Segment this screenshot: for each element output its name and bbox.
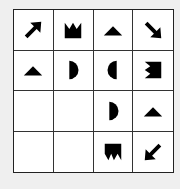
half-circle-left-icon xyxy=(102,59,124,81)
triangle-up-icon xyxy=(102,19,124,41)
cell-r1c2[interactable] xyxy=(54,10,94,51)
cell-r4c3[interactable] xyxy=(94,132,134,173)
cell-r3c3[interactable] xyxy=(94,91,134,132)
puzzle-grid xyxy=(13,9,174,173)
triangle-up-icon xyxy=(22,59,44,81)
cell-r3c4[interactable] xyxy=(133,91,173,132)
arrow-up-right-icon xyxy=(22,19,44,41)
half-circle-right-icon xyxy=(62,59,84,81)
crown-icon xyxy=(62,19,84,41)
cell-r3c1[interactable] xyxy=(14,91,54,132)
arrow-down-left-icon xyxy=(142,141,164,163)
zigzag-left-block-icon xyxy=(142,59,164,81)
cell-r1c3[interactable] xyxy=(94,10,134,51)
cell-r1c1[interactable] xyxy=(14,10,54,51)
cell-r2c1[interactable] xyxy=(14,51,54,92)
cell-r4c1[interactable] xyxy=(14,132,54,173)
cell-r3c2[interactable] xyxy=(54,91,94,132)
zigzag-bottom-block-icon xyxy=(102,141,124,163)
cell-r4c4[interactable] xyxy=(133,132,173,173)
cell-r4c2[interactable] xyxy=(54,132,94,173)
triangle-up-icon xyxy=(142,100,164,122)
arrow-down-right-icon xyxy=(142,19,164,41)
half-circle-right-icon xyxy=(102,100,124,122)
cell-r2c2[interactable] xyxy=(54,51,94,92)
cell-r2c3[interactable] xyxy=(94,51,134,92)
cell-r1c4[interactable] xyxy=(133,10,173,51)
cell-r2c4[interactable] xyxy=(133,51,173,92)
